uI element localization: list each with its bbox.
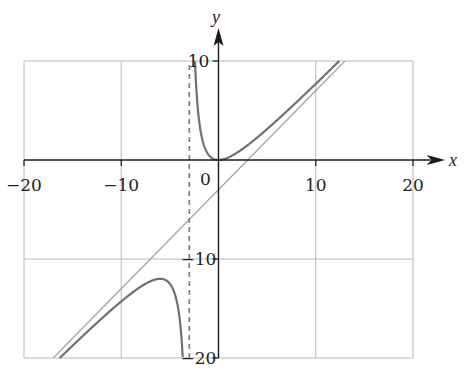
tick-labels: −20−101020010−10−20 — [6, 51, 424, 368]
y-tick-label: −10 — [181, 249, 217, 269]
origin-label: 0 — [200, 169, 211, 189]
slant-asymptote-line — [53, 61, 345, 358]
y-axis-label: y — [210, 7, 220, 27]
x-tick-label: −20 — [6, 175, 42, 195]
y-tick-label: 10 — [188, 51, 210, 71]
chart-plot: −20−101020010−10−20 x y — [0, 0, 471, 384]
x-tick-label: −10 — [103, 175, 139, 195]
asymptotes — [53, 61, 345, 358]
y-tick-label: −20 — [181, 348, 217, 368]
x-axis-label: x — [448, 150, 457, 170]
axes — [24, 28, 445, 358]
curve-right-branch — [195, 61, 339, 160]
x-tick-label: 20 — [402, 175, 424, 195]
x-tick-label: 10 — [305, 175, 327, 195]
